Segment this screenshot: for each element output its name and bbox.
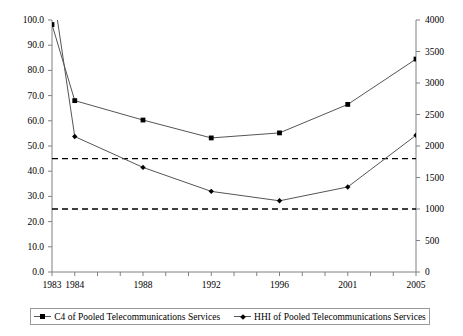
plot-area [52,20,416,272]
legend-item-c4: C4 of Pooled Telecommunications Services [34,312,220,322]
left-axis-tick-label: 70.0 [0,91,44,101]
left-axis-tick-label: 90.0 [0,40,44,50]
x-axis-tick-label: 1992 [191,280,231,290]
chart-container: 0.010.020.030.040.050.060.070.080.090.01… [0,0,463,336]
left-axis-tick-label: 40.0 [0,166,44,176]
right-axis-tick-label: 2500 [425,110,463,120]
right-axis-tick-label: 500 [425,236,463,246]
legend-label-c4: C4 of Pooled Telecommunications Services [54,312,220,322]
right-axis-tick-label: 3000 [425,78,463,88]
data-point-marker [414,57,419,62]
legend-marker-square-icon [34,313,51,321]
x-axis-tick-label: 2001 [328,280,368,290]
right-axis-tick-label: 3500 [425,47,463,57]
left-axis-tick-label: 80.0 [0,65,44,75]
x-axis-tick-label: 1984 [55,280,95,290]
legend-marker-diamond-icon [234,313,251,321]
left-axis-tick-label: 100.0 [0,15,44,25]
left-axis-tick-label: 0.0 [0,267,44,277]
data-point-marker [72,134,77,139]
chart-legend: C4 of Pooled Telecommunications Services… [30,308,430,325]
right-axis-tick-label: 1500 [425,173,463,183]
left-axis-tick-label: 60.0 [0,116,44,126]
x-axis-tick-label: 1996 [260,280,300,290]
data-point-marker [141,118,146,123]
data-point-marker [209,189,214,194]
x-axis-tick-label: 2005 [396,280,436,290]
left-axis-tick-label: 20.0 [0,217,44,227]
series-line-c4 [52,25,416,138]
data-point-marker [72,98,77,103]
legend-item-hhi: HHI of Pooled Telecommunications Service… [234,312,426,322]
data-point-marker [209,136,214,141]
series-line-hhi [52,0,416,201]
right-axis-tick-label: 1000 [425,204,463,214]
right-axis-tick-label: 2000 [425,141,463,151]
right-axis-tick-label: 4000 [425,15,463,25]
right-axis-tick-label: 0 [425,267,463,277]
left-axis-tick-label: 50.0 [0,141,44,151]
data-point-marker [345,102,350,107]
data-point-marker [50,22,55,27]
data-point-marker [277,198,282,203]
left-axis-tick-label: 10.0 [0,242,44,252]
x-axis-tick-label: 1988 [123,280,163,290]
left-axis-tick-label: 30.0 [0,191,44,201]
data-point-marker [140,165,145,170]
legend-label-hhi: HHI of Pooled Telecommunications Service… [254,312,426,322]
chart-plot-svg [52,20,416,272]
data-point-marker [277,130,282,135]
